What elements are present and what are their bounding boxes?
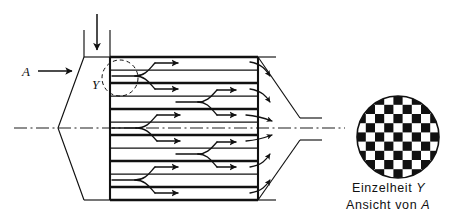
housing-right-wall-lower <box>258 140 300 200</box>
outlet-arrow <box>250 62 270 76</box>
technical-drawing: A Y <box>0 0 457 216</box>
caption-line-1: Einzelheit Y <box>352 181 426 195</box>
detail-marker-label: Y <box>92 77 101 92</box>
detail-circle-outline <box>102 60 138 96</box>
caption-line-1-italic: Y <box>416 181 426 195</box>
caption-line-2: Ansicht von A <box>346 198 430 212</box>
caption-line-1-text: Einzelheit <box>352 181 416 195</box>
view-direction-label: A <box>21 64 30 79</box>
housing-right-wall-upper <box>258 57 300 118</box>
checkerboard-matrix-circle <box>357 96 449 180</box>
detail-caption: Einzelheit Y Ansicht von A <box>346 181 430 212</box>
view-direction-arrow-a: A <box>21 64 72 79</box>
housing-left-wall <box>58 57 84 200</box>
diagram-canvas: A Y <box>0 0 457 216</box>
caption-line-2-text: Ansicht von <box>346 198 421 212</box>
caption-line-2-italic: A <box>420 198 430 212</box>
detail-region-circle: Y <box>92 60 138 96</box>
